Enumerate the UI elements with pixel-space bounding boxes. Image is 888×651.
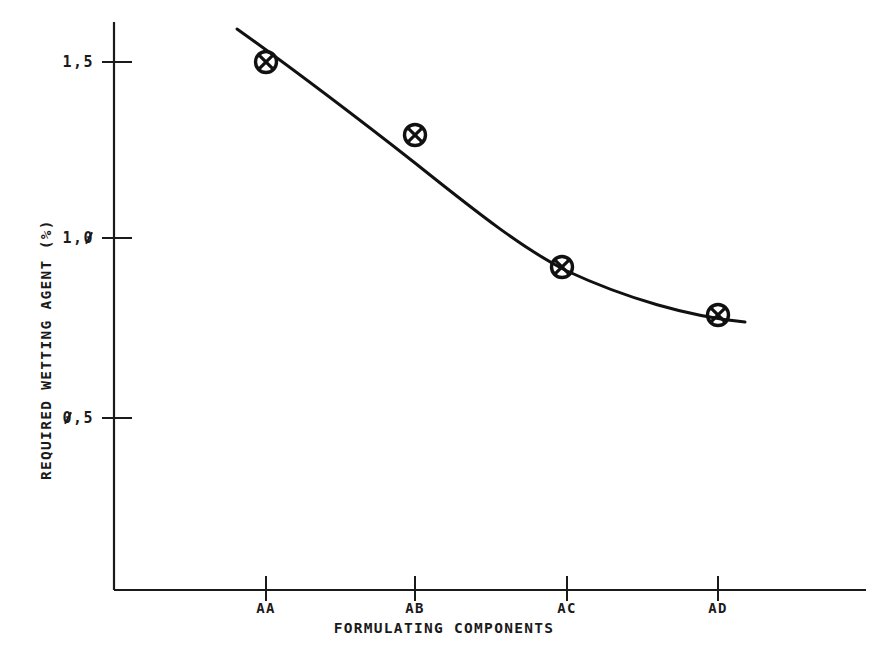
- y-axis-title-container: REQUIRED WETTING AGENT (%): [0, 0, 60, 651]
- y-axis-title: REQUIRED WETTING AGENT (%): [38, 219, 54, 480]
- y-axis-ticks: [102, 62, 132, 418]
- fitted-curve: [237, 29, 745, 322]
- data-point-marker-ad: [708, 305, 729, 326]
- data-point-marker-ac: [552, 257, 573, 278]
- chart-figure: 1,5 1,0 0,5 AA AB AC AD FORMULATING COMP…: [0, 0, 888, 651]
- data-point-marker-ab: [405, 125, 426, 146]
- x-axis-ticks: [266, 576, 718, 601]
- x-axis-title: FORMULATING COMPONENTS: [0, 620, 888, 636]
- x-tick-label-aa: AA: [256, 600, 275, 616]
- x-tick-label-ad: AD: [708, 600, 727, 616]
- data-point-marker-aa: [256, 52, 277, 73]
- x-tick-label-ab: AB: [405, 600, 424, 616]
- x-tick-label-ac: AC: [557, 600, 576, 616]
- chart-plot-area: [0, 0, 888, 651]
